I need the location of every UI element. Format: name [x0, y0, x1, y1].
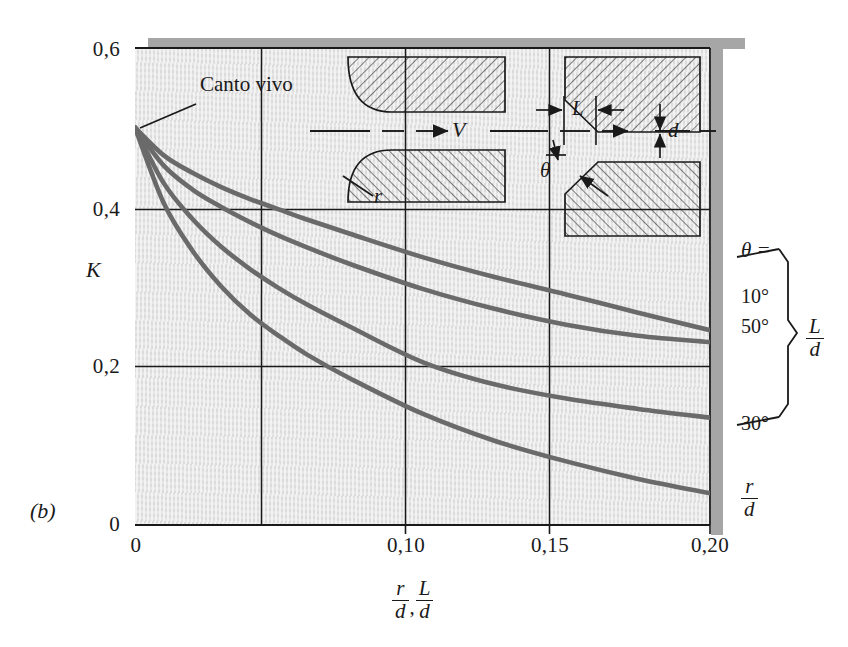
label-rd-bottom: r d [741, 476, 758, 521]
inset-left-upper-wall [348, 57, 505, 112]
inset-rounded-entrance [310, 57, 540, 202]
x-tick-0.15: 0,15 [510, 533, 590, 558]
x-axis-title-comma: , [410, 595, 415, 623]
brace-label-ld: L d [806, 316, 824, 361]
theta-header: θ = [741, 238, 771, 263]
brace-L-over-d [779, 249, 797, 417]
y-axis-label: K [86, 257, 101, 283]
y-tick-0.4: 0,4 [60, 197, 120, 222]
x-tick-0.10: 0,10 [366, 533, 446, 558]
x-tick-0: 0 [96, 533, 176, 558]
canto-vivo-leader [140, 104, 196, 128]
x-tick-0.20: 0,20 [670, 533, 750, 558]
y-tick-0.2: 0,2 [60, 354, 120, 379]
inset-right-lower-wall [565, 162, 700, 236]
figure-entrance-loss-coefficient: (b) K 0,6 0,4 0,2 0 0 0,10 0,15 0,20 r d… [0, 0, 848, 647]
panel-label: (b) [30, 498, 56, 524]
inset-right-angle-label: θ [540, 158, 550, 183]
inset-right-diameter-label: d [668, 118, 679, 143]
inset-right-upper-wall [565, 57, 700, 132]
inset-right-length-label: L [572, 96, 584, 121]
canto-vivo-label: Canto vivo [200, 72, 293, 97]
curve-label-30deg: 30° [741, 412, 769, 435]
inset-left-velocity-label: V [452, 117, 465, 143]
x-axis-title-ld: L d [416, 578, 434, 623]
curve-label-50deg: 50° [741, 315, 769, 338]
curve-label-10deg: 10° [741, 285, 769, 308]
x-axis-title: r d , L d [392, 578, 433, 623]
inset-left-radius-label: r [374, 184, 382, 209]
x-axis-title-rd: r d [392, 578, 409, 623]
y-tick-0.6: 0,6 [60, 37, 120, 62]
